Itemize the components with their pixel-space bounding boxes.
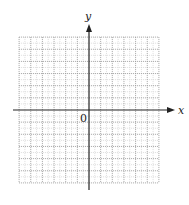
x-axis-arrow-icon xyxy=(167,107,175,113)
y-axis-label: y xyxy=(84,10,92,23)
x-axis-label: x xyxy=(178,104,185,117)
origin-label: 0 xyxy=(80,112,87,125)
y-axis-arrow-icon xyxy=(86,24,92,32)
coordinate-plane: x y 0 xyxy=(0,0,189,205)
